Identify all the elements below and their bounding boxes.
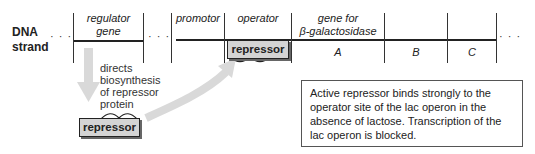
annotation-line4: protein [100, 98, 161, 110]
regulator-gene-line1: regulator [74, 12, 143, 25]
tick [496, 13, 497, 63]
bound-repressor: repressor [227, 40, 289, 59]
gene-b-label: B [385, 46, 447, 59]
gene-for-line1: gene for [292, 12, 384, 25]
biosynthesis-annotation: directs biosynthesis of repressor protei… [100, 62, 161, 110]
annotation-line1: directs [100, 62, 161, 74]
annotation-line2: biosynthesis [100, 74, 161, 86]
strand-regulator [73, 40, 143, 42]
annotation-line3: of repressor [100, 86, 161, 98]
left-ellipsis: · · · [50, 30, 72, 42]
gene-c-label: C [448, 46, 496, 59]
free-repressor: repressor [79, 118, 140, 137]
gene-a-label: A [292, 46, 384, 59]
promotor-label: promotor [172, 12, 224, 25]
regulator-gene-line2: gene [74, 25, 143, 38]
gene-for-line2: β-galactosidase [292, 25, 384, 38]
tick [143, 13, 144, 63]
dna-strand-label: DNA strand [12, 25, 49, 55]
gene-for-label: gene for β-galactosidase [292, 12, 384, 38]
dna-label-line1: DNA [12, 25, 49, 40]
dna-label-line2: strand [12, 40, 49, 55]
down-arrow-icon [77, 48, 100, 102]
regulator-gene-label: regulator gene [74, 12, 143, 38]
right-ellipsis: · · · [499, 30, 521, 42]
explanation-note: Active repressor binds strongly to the o… [301, 80, 523, 147]
operator-label: operator [225, 12, 291, 25]
middle-ellipsis: · · · [148, 30, 170, 42]
